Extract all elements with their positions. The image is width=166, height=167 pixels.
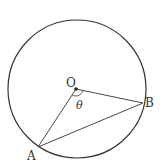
label-theta: θ [76, 99, 83, 112]
segment-AB [38, 103, 143, 147]
segment-OB [76, 89, 143, 103]
label-O: O [66, 76, 76, 90]
segment-OA [38, 89, 76, 147]
label-A: A [26, 149, 36, 163]
circle-diagram: O B A θ [0, 0, 166, 167]
label-B: B [145, 96, 154, 110]
